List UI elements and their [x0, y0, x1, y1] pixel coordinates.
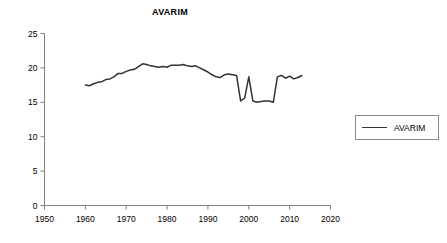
chart-legend: AVARIM: [355, 115, 439, 140]
x-tick-label: 1980: [158, 214, 177, 224]
x-tick-label: 1990: [198, 214, 217, 224]
x-tick-label: 2020: [321, 214, 340, 224]
x-tick-label: 2010: [280, 214, 299, 224]
y-tick-label: 0: [33, 201, 38, 211]
axes: [41, 34, 331, 210]
data-series: [85, 64, 302, 103]
y-tick-label: 15: [28, 97, 38, 107]
x-tick-label: 1950: [35, 214, 54, 224]
legend-label: AVARIM: [394, 123, 425, 133]
tick-labels: 0510152025195019601970198019902000201020…: [28, 29, 340, 224]
x-tick-label: 1970: [117, 214, 136, 224]
legend-item-avarim: AVARIM: [356, 116, 438, 139]
y-tick-label: 5: [33, 166, 38, 176]
chart-figure: AVARIM 051015202519501960197019801990200…: [0, 0, 447, 243]
x-tick-label: 2000: [239, 214, 258, 224]
x-tick-label: 1960: [76, 214, 95, 224]
chart-title: AVARIM: [0, 7, 340, 17]
y-tick-label: 20: [28, 63, 38, 73]
series-line-avarim: [85, 64, 302, 103]
legend-line-swatch: [362, 127, 387, 128]
y-tick-label: 25: [28, 29, 38, 39]
y-tick-label: 10: [28, 132, 38, 142]
